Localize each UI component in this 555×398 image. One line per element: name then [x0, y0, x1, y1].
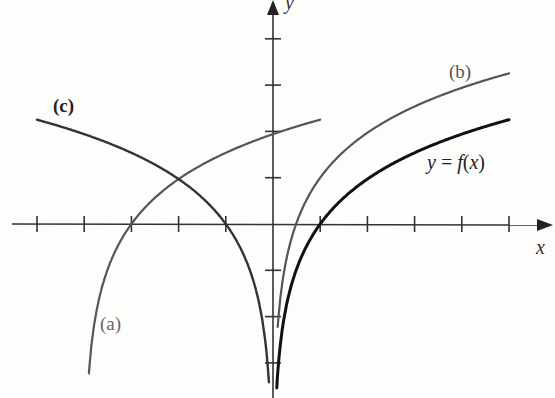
curve-f-label: y = f(x) [425, 151, 485, 174]
curve-b [278, 73, 509, 327]
curve-a-label: (a) [100, 313, 121, 335]
curve-b-label: (b) [449, 61, 471, 83]
x-axis-arrow-icon [537, 219, 553, 231]
plot-area: x y (a) (b) (c) y = f(x) [0, 0, 555, 398]
curve-c [37, 120, 269, 383]
curve-c-label: (c) [53, 95, 74, 117]
x-axis-line [12, 224, 540, 225]
chart-figure: x y (a) (b) (c) y = f(x) [0, 0, 555, 398]
y-axis-label: y [283, 0, 294, 14]
x-axis-label: x [535, 236, 545, 258]
y-axis-arrow-icon [267, 0, 279, 15]
curve-a [89, 120, 320, 374]
